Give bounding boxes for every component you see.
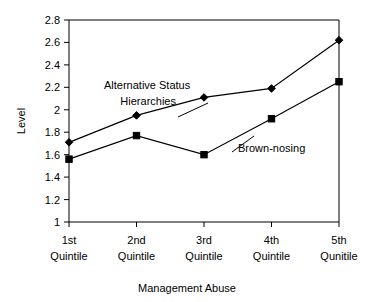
- data-point-square: [201, 151, 207, 157]
- data-point-diamond: [65, 139, 73, 147]
- x-tick-label-top: 2nd: [127, 234, 145, 246]
- series-alternative-status-hierarchies: [65, 36, 343, 146]
- data-point-diamond: [200, 94, 208, 102]
- annotation-line-2: Hierarchies: [120, 95, 176, 107]
- x-tick-label-top: 4th: [264, 234, 279, 246]
- y-tick-label: 1.2: [45, 194, 60, 206]
- data-point-square: [66, 156, 72, 162]
- y-axis-tick-labels: 1 1.2 1.4 1.6 1.8 2 2.2 2.4 2.6 2.8: [45, 14, 60, 228]
- y-tick-label: 1: [54, 216, 60, 228]
- x-axis-category-labels: 1st Quintile 2nd Quintile 3rd Quintile 4…: [50, 234, 357, 262]
- data-point-square: [268, 116, 274, 122]
- x-tick-label-bottom: Quintile: [118, 250, 155, 262]
- y-axis-title: Level: [15, 108, 27, 134]
- x-tick-label-top: 3rd: [196, 234, 212, 246]
- data-point-square: [336, 79, 342, 85]
- annotation-line-1: Alternative Status: [104, 79, 191, 91]
- x-tick-label-bottom: Quintile: [185, 250, 222, 262]
- x-tick-label-bottom: Qunitile: [320, 250, 357, 262]
- series-annotation-alternative-status-hierarchies: Alternative Status Hierarchies: [104, 79, 191, 107]
- data-point-diamond: [268, 85, 276, 93]
- series-annotation-brown-nosing: Brown-nosing: [238, 142, 305, 154]
- data-point-diamond: [133, 112, 141, 120]
- y-tick-label: 2.2: [45, 81, 60, 93]
- plot-frame: [69, 20, 339, 222]
- y-tick-label: 1.8: [45, 126, 60, 138]
- x-tick-label-top: 1st: [62, 234, 77, 246]
- x-axis-ticks: [69, 222, 339, 227]
- x-tick-label-bottom: Quintile: [50, 250, 87, 262]
- y-tick-label: 1.6: [45, 149, 60, 161]
- x-tick-label-top: 5th: [331, 234, 346, 246]
- x-tick-label-bottom: Quintile: [253, 250, 290, 262]
- y-axis-ticks: [64, 20, 69, 222]
- y-tick-label: 2: [54, 104, 60, 116]
- y-tick-label: 2.8: [45, 14, 60, 26]
- y-tick-label: 2.4: [45, 59, 60, 71]
- chart-container: 1 1.2 1.4 1.6 1.8 2 2.2 2.4 2.6 2.8 1st …: [0, 0, 375, 302]
- y-tick-label: 1.4: [45, 171, 60, 183]
- data-point-diamond: [335, 36, 343, 44]
- line-chart: 1 1.2 1.4 1.6 1.8 2 2.2 2.4 2.6 2.8 1st …: [0, 0, 375, 302]
- leader-line-series1: [178, 103, 208, 117]
- data-point-square: [133, 132, 139, 138]
- y-tick-label: 2.6: [45, 36, 60, 48]
- x-axis-title: Management Abuse: [138, 282, 236, 294]
- series-line: [69, 40, 339, 142]
